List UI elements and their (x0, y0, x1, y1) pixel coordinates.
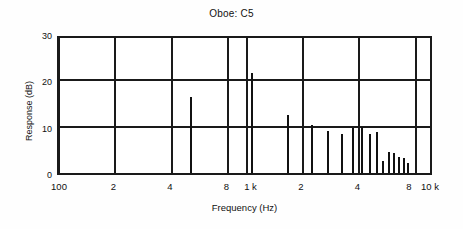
x-tick-label: 100 (51, 181, 67, 192)
gridline-horizontal (59, 126, 430, 128)
spectrum-bar (403, 158, 405, 173)
x-tick-label: 4 (355, 181, 360, 192)
spectrum-bar (251, 73, 253, 173)
y-axis-tick-labels: 0102030 (26, 0, 52, 229)
gridline-vertical (227, 38, 229, 173)
spectrum-bar (407, 163, 409, 173)
y-tick-label: 20 (28, 78, 52, 87)
gridline-vertical (415, 38, 417, 173)
plot-area (57, 36, 432, 175)
spectrum-bar (190, 97, 192, 173)
x-tick-label: 2 (298, 181, 303, 192)
y-tick-label: 30 (28, 32, 52, 41)
spectrum-bar (388, 152, 390, 173)
x-tick-label: 1 k (244, 181, 257, 192)
spectrum-bar (352, 128, 354, 173)
spectrum-bar (382, 161, 384, 174)
gridline-vertical (246, 38, 248, 173)
chart-title: Oboe: C5 (0, 8, 463, 19)
spectrum-bar (393, 153, 395, 173)
gridline-vertical (302, 38, 304, 173)
spectrum-bar (327, 131, 329, 173)
x-tick-label: 2 (111, 181, 116, 192)
gridline-vertical (114, 38, 116, 173)
spectrum-bar (361, 127, 363, 173)
spectrum-bar (369, 134, 371, 173)
spectrum-bar (341, 134, 343, 173)
x-tick-label: 8 (224, 181, 229, 192)
x-tick-label: 10 k (421, 181, 439, 192)
spectrum-bar (376, 132, 378, 173)
x-tick-label: 4 (167, 181, 172, 192)
y-tick-label: 0 (28, 171, 52, 180)
gridline-horizontal (59, 79, 430, 81)
spectrum-bar (311, 125, 313, 173)
gridline-vertical (171, 38, 173, 173)
y-tick-label: 10 (28, 125, 52, 134)
gridline-vertical (58, 38, 60, 173)
x-tick-label: 8 (406, 181, 411, 192)
spectrum-bar (287, 115, 289, 173)
x-axis-label: Frequency (Hz) (57, 202, 432, 213)
spectrum-bar (398, 157, 400, 173)
figure-canvas: Oboe: C5 Response (dB) 0102030 1002481 k… (0, 0, 463, 229)
